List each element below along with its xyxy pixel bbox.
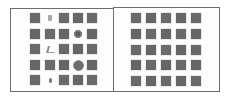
grid-cell-square — [191, 29, 201, 39]
grid-cell-square — [87, 44, 97, 54]
gray-square — [45, 29, 55, 39]
gray-square — [131, 45, 141, 55]
gray-square — [30, 60, 40, 70]
grid-cell-square — [30, 44, 40, 54]
gray-square — [131, 29, 141, 39]
figure-panel-left — [10, 8, 114, 92]
gray-square — [146, 29, 156, 39]
grid-cell-square — [146, 45, 156, 55]
dot-mark — [49, 78, 52, 83]
grid-cell-square — [176, 76, 186, 86]
gray-square — [87, 13, 97, 23]
grid-cell-square — [191, 76, 201, 86]
round-blob — [73, 60, 84, 71]
grid-cell-square — [191, 45, 201, 55]
figure-panel-right — [113, 7, 220, 92]
grid-cell-square — [161, 45, 171, 55]
gray-square — [87, 75, 97, 85]
gray-square — [176, 13, 186, 23]
gray-square — [191, 60, 201, 70]
grid-cell-square — [73, 13, 83, 23]
gray-square — [73, 44, 83, 54]
grid-cell-square — [131, 13, 141, 23]
grid-cell-square — [30, 60, 40, 70]
grid-cell-square — [30, 75, 40, 85]
grid-cell-round-blob — [73, 60, 83, 70]
gray-square — [87, 29, 97, 39]
grid-cell-square — [30, 13, 40, 23]
grid-cell-square — [59, 13, 69, 23]
gray-square — [131, 13, 141, 23]
gray-square — [161, 13, 171, 23]
gray-square — [30, 75, 40, 85]
grid-cell-square — [73, 75, 83, 85]
grid-cell-square — [161, 29, 171, 39]
gray-square — [191, 29, 201, 39]
gray-square — [176, 76, 186, 86]
gray-square — [45, 60, 55, 70]
gray-square — [161, 45, 171, 55]
grid-cell-square — [30, 29, 40, 39]
gray-square — [30, 29, 40, 39]
grid-cell-square — [161, 60, 171, 70]
grid-cell-square — [59, 75, 69, 85]
gray-square — [59, 60, 69, 70]
grid-cell-flower-blob — [73, 29, 83, 39]
gray-square — [131, 76, 141, 86]
grid-cell-square — [131, 29, 141, 39]
grid-cell-square — [146, 76, 156, 86]
gray-square — [176, 60, 186, 70]
gray-square — [161, 76, 171, 86]
grid-cell-square — [131, 76, 141, 86]
grid-cell-square — [45, 29, 55, 39]
grid-cell-dot-mark — [45, 75, 55, 85]
grid-cell-square — [59, 44, 69, 54]
grid-cell-square — [146, 60, 156, 70]
grid-cell-square — [87, 13, 97, 23]
grid-cell-square — [176, 29, 186, 39]
grid-cell-square — [176, 45, 186, 55]
grid-cell-square — [146, 29, 156, 39]
faint-mark — [48, 15, 52, 21]
grid-cell-square — [146, 13, 156, 23]
grid-cell-square — [73, 44, 83, 54]
grid-cell-square — [131, 60, 141, 70]
gray-square — [161, 60, 171, 70]
gray-square — [161, 29, 171, 39]
gray-square — [176, 29, 186, 39]
gray-square — [59, 75, 69, 85]
grid-cell-square — [176, 60, 186, 70]
gray-square — [30, 44, 40, 54]
grid-cell-square — [87, 60, 97, 70]
grid-cell-square — [131, 45, 141, 55]
gray-square — [146, 60, 156, 70]
gray-square — [176, 45, 186, 55]
gray-square — [146, 45, 156, 55]
grid-cell-square — [191, 13, 201, 23]
gray-square — [191, 13, 201, 23]
grid-cell-square — [59, 60, 69, 70]
gray-square — [87, 44, 97, 54]
gray-square — [30, 13, 40, 23]
gray-square — [59, 13, 69, 23]
gray-square — [59, 44, 69, 54]
gray-square — [146, 13, 156, 23]
gray-square — [191, 45, 201, 55]
grid-cell-square — [59, 29, 69, 39]
grid-cell-square — [161, 76, 171, 86]
gray-square — [87, 60, 97, 70]
gray-square — [191, 76, 201, 86]
grid-cell-square — [87, 75, 97, 85]
gray-square — [146, 76, 156, 86]
flower-blob — [73, 29, 83, 39]
gray-square — [73, 75, 83, 85]
gray-square — [73, 13, 83, 23]
grid-cell-square — [176, 13, 186, 23]
grid-cell-square — [45, 60, 55, 70]
grid-cell-glyph-mark — [45, 44, 55, 54]
grid-cell-square — [191, 60, 201, 70]
grid-cell-square — [161, 13, 171, 23]
grid-cell-square — [87, 29, 97, 39]
glyph-mark — [46, 46, 56, 53]
gray-square — [131, 60, 141, 70]
